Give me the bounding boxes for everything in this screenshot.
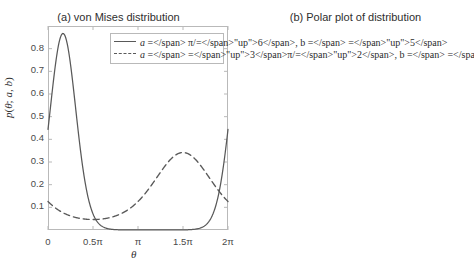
- figure-canvas: (a) von Mises distribution p(θ; a, b) θ …: [0, 0, 474, 270]
- legend-line-sample-dashed: [114, 53, 136, 55]
- legend-item: a =</span> =</span>"up">3</span>π/=</spa…: [114, 48, 220, 60]
- axis-tick-label: 0.2: [18, 178, 44, 189]
- panel-a-xlabel: θ: [131, 248, 136, 260]
- panel-b-curves: [237, 0, 474, 270]
- axis-tick-label: 0.8: [18, 42, 44, 53]
- legend-line-sample-solid: [114, 41, 136, 43]
- axis-tick-label: 0.7: [18, 64, 44, 75]
- axis-tick-label: 0.5: [18, 110, 44, 121]
- axis-tick-label: π: [120, 236, 156, 247]
- panel-polar-plot: (b) Polar plot of distribution p(θ; a, b…: [237, 0, 474, 270]
- axis-tick-label: 0.1: [18, 200, 44, 211]
- legend-item: a =</span> π/=</span>"up">6</span>, b =<…: [114, 36, 220, 48]
- panel-a-legend: a =</span> π/=</span>"up">6</span>, b =<…: [110, 33, 224, 64]
- panel-von-mises-distribution: (a) von Mises distribution p(θ; a, b) θ …: [0, 0, 237, 270]
- axis-tick-label: 0: [30, 236, 66, 247]
- data-curve: [48, 153, 228, 220]
- axis-tick-label: 1.5π: [165, 236, 201, 247]
- axis-tick-label: 0.6: [18, 87, 44, 98]
- axis-tick-label: 0.4: [18, 132, 44, 143]
- panel-a-ylabel: p(θ; a, b): [2, 77, 14, 118]
- axis-tick-label: 0.3: [18, 155, 44, 166]
- axis-tick-label: 0.5π: [75, 236, 111, 247]
